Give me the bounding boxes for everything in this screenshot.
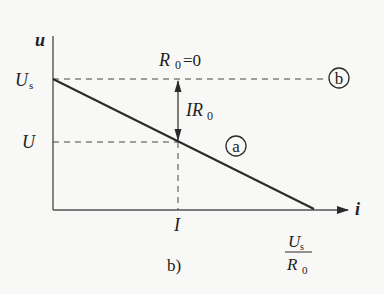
intercept-den-sub: 0 <box>302 264 308 276</box>
diagram-canvas: b a u i U s U I R 0 =0 IR 0 U s <box>0 0 384 294</box>
intercept-fraction-label: U s R 0 <box>285 232 312 276</box>
us-label-sub: s <box>29 79 33 91</box>
intercept-num-sub: s <box>300 241 304 252</box>
us-label-main: U <box>15 70 29 90</box>
curve-a-label: a <box>232 137 240 156</box>
curve-b-label: b <box>335 69 344 88</box>
r0-main: R <box>158 50 170 70</box>
ir0-label: IR 0 <box>185 100 213 123</box>
r0-zero-label: R 0 =0 <box>158 50 201 72</box>
arrowhead-up-icon <box>175 80 182 92</box>
curve-a-line <box>53 79 314 209</box>
ir0-sub: 0 <box>207 109 213 123</box>
figure-caption: b) <box>167 256 181 275</box>
us-label: U s <box>15 70 33 91</box>
voltage-current-diagram: b a u i U s U I R 0 =0 IR 0 U s <box>0 0 384 294</box>
i-label: I <box>173 215 181 235</box>
ir0-main: IR <box>185 100 203 120</box>
intercept-den-main: R <box>286 255 298 274</box>
y-axis-label: u <box>35 30 45 50</box>
x-axis-label: i <box>355 199 360 219</box>
u-label: U <box>22 132 36 152</box>
r0-sub: 0 <box>175 58 181 72</box>
r0-suffix: =0 <box>183 51 201 70</box>
